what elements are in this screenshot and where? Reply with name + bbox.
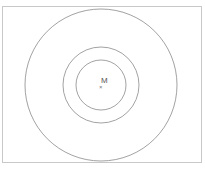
center-label-m: M <box>101 76 108 85</box>
concentric-circles-diagram: × M <box>0 0 205 170</box>
